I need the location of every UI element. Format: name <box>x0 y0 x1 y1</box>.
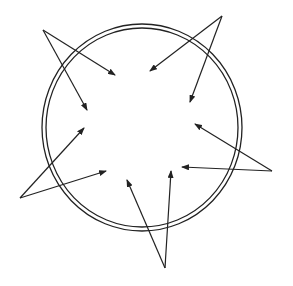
outer-ring <box>42 24 242 231</box>
converging-arrows-diagram <box>0 0 293 286</box>
inner-ring <box>46 28 238 227</box>
arrow-icon <box>182 167 272 171</box>
arrow-group-right <box>182 124 272 171</box>
arrow-icon <box>43 30 115 75</box>
arrow-icon <box>165 171 171 268</box>
arrow-group-top-left <box>43 30 115 110</box>
arrow-icon <box>43 30 87 110</box>
arrow-groups <box>20 16 272 268</box>
arrow-icon <box>127 180 165 268</box>
arrow-group-bottom <box>127 171 171 268</box>
arrow-group-left <box>20 128 106 198</box>
arrow-icon <box>195 124 272 171</box>
double-ring <box>42 24 242 231</box>
